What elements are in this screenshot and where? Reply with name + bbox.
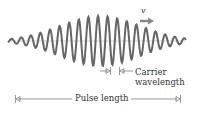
pulse-length-label: Pulse length xyxy=(73,94,131,103)
carrier-wavelength-label: Carrier wavelength xyxy=(135,67,185,87)
carrier-wavelength-marker xyxy=(100,67,133,75)
carrier-label-line2: wavelength xyxy=(135,77,185,87)
velocity-label: v xyxy=(141,7,146,15)
pulse-diagram: v Carrier wavelength Pulse length xyxy=(0,0,197,118)
velocity-arrow-icon xyxy=(140,18,154,25)
carrier-label-line1: Carrier xyxy=(135,67,185,77)
